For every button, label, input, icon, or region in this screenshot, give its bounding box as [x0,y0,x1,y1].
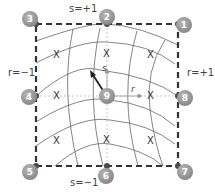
gauss-point: X [147,136,154,146]
gauss-point: X [103,135,110,145]
node-6: 6 [98,168,114,184]
edge-label-bottom: s=−1 [70,178,98,188]
gauss-point: X [103,49,110,59]
node-9: 9 [99,88,115,104]
gauss-point: X [53,136,60,146]
gauss-point: X [147,91,154,101]
node-4: 4 [21,89,37,105]
s-axis-label: s [102,64,107,73]
edge-label-right: r=+1 [187,68,214,78]
edge-label-top: s=+1 [69,4,97,14]
node-1: 1 [176,17,192,33]
r-axis-label: r [131,85,135,94]
node-8: 8 [177,90,193,106]
node-7: 7 [177,164,193,180]
gauss-point: X [53,50,60,60]
gauss-point: X [53,91,60,101]
edge-label-left: r=−1 [8,68,35,78]
node-5: 5 [22,164,38,180]
node-2: 2 [99,9,115,25]
gauss-point: X [147,50,154,60]
node-3: 3 [22,11,38,27]
